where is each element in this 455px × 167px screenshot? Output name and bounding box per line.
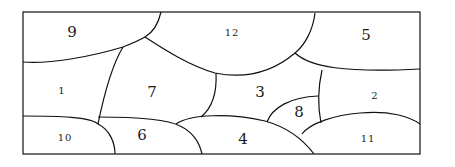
boundary-9-1 (23, 37, 145, 62)
region-label-4: 4 (238, 130, 248, 148)
region-label-7: 7 (147, 83, 157, 101)
region-label-3: 3 (255, 83, 265, 101)
region-label-12: 12 (225, 27, 240, 38)
region-label-10: 10 (58, 132, 73, 143)
boundary-8 (267, 96, 318, 122)
boundary-6 (98, 117, 202, 154)
boundary-12-5 (295, 13, 315, 53)
region-label-6: 6 (137, 126, 147, 144)
boundary-7-3 (201, 73, 216, 117)
region-label-9: 9 (67, 23, 77, 41)
region-label-2: 2 (371, 90, 378, 101)
region-label-5: 5 (361, 26, 371, 44)
boundary-9-12 (145, 12, 161, 37)
region-label-1: 1 (58, 85, 65, 96)
boundary-1-7 (98, 47, 123, 124)
boundary-3-2 (319, 70, 322, 123)
region-label-11: 11 (361, 133, 376, 144)
region-diagram: 9 12 5 1 7 3 2 8 10 6 4 11 (0, 0, 455, 167)
boundary-12-7-3 (145, 37, 295, 75)
boundary-5-2 (295, 53, 420, 70)
region-label-8: 8 (294, 103, 304, 121)
